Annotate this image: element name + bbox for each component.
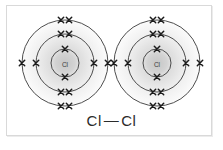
- atom-right-symbol: Cl: [154, 61, 161, 68]
- bond-dash: —: [102, 111, 122, 129]
- atom-left-symbol: Cl: [62, 61, 69, 68]
- molecule-formula-label: Cl—Cl: [0, 112, 223, 130]
- atom-right: Cl: [114, 20, 200, 106]
- figure-canvas: Cl Cl: [0, 0, 223, 150]
- formula-left-symbol: Cl: [87, 112, 102, 129]
- atom-left: Cl: [22, 20, 108, 106]
- formula-right-symbol: Cl: [121, 112, 136, 129]
